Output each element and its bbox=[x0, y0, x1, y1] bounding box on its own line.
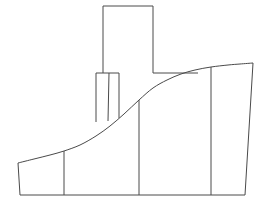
canvas-background bbox=[0, 0, 271, 211]
technical-drawing-canvas bbox=[0, 0, 271, 211]
